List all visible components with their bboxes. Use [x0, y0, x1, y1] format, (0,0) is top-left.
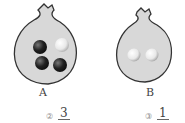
- black-ball: [53, 58, 67, 72]
- black-ball: [35, 56, 49, 70]
- option-3-marker: ③: [145, 112, 152, 121]
- white-ball: [55, 38, 69, 52]
- white-ball: [146, 49, 159, 62]
- option-2-numerator: 3: [58, 107, 70, 120]
- white-ball: [128, 49, 141, 62]
- option-2: ② 3: [46, 110, 53, 121]
- black-ball: [33, 40, 47, 54]
- bag-a-drawing: [10, 2, 82, 86]
- bag-a-label: A: [33, 86, 53, 99]
- option-2-marker: ②: [46, 112, 53, 121]
- bag-b-outline: [117, 8, 172, 82]
- bag-b-drawing: [113, 6, 175, 84]
- option-3: ③ 1: [145, 110, 152, 121]
- bag-b: [113, 6, 175, 84]
- bag-a: [10, 2, 82, 86]
- option-3-numerator: 1: [157, 107, 169, 120]
- bag-b-label: B: [140, 86, 160, 99]
